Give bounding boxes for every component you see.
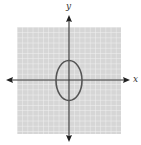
y-axis-label: y [66,1,71,11]
y-axis-up-arrow-icon [66,15,72,22]
coordinate-plane [0,0,141,145]
x-axis-right-arrow-icon [123,77,130,83]
x-axis-label: x [133,74,138,84]
x-axis-left-arrow-icon [6,77,13,83]
y-axis-down-arrow-icon [66,135,72,142]
